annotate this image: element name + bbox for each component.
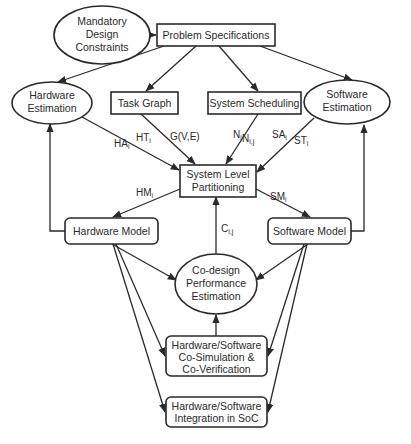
edge-problem-to-system-scheduling — [219, 46, 258, 91]
hw-sw-codesign-flow-diagram: Mandatory Design Constraints Problem Spe… — [0, 0, 411, 444]
node-label: Partitioning — [192, 181, 245, 193]
edge-problem-to-sw-estimation — [260, 46, 352, 80]
node-hardware-estimation: Hardware Estimation — [12, 82, 92, 124]
node-label: System Scheduling — [210, 97, 300, 109]
node-label: Hardware/Software — [172, 339, 262, 351]
edge-label-nij: Ni,j — [242, 133, 255, 146]
node-label: Software — [326, 88, 368, 100]
node-label: Constraints — [75, 41, 128, 53]
edge-label-n: Ni — [233, 129, 242, 141]
node-label: Hardware Model — [73, 225, 150, 237]
edge-label-ha: HAi — [114, 138, 130, 150]
edge-hw-estimation-to-partition — [82, 117, 179, 170]
node-label: Estimation — [27, 102, 76, 114]
node-mandatory-design-constraints: Mandatory Design Constraints — [54, 6, 150, 64]
node-label: Mandatory — [77, 15, 127, 27]
node-software-model: Software Model — [268, 218, 351, 244]
edge-problem-to-task-graph — [146, 46, 196, 91]
node-problem-specifications: Problem Specifications — [157, 24, 275, 46]
edge-label-g: G(V,E) — [170, 131, 200, 142]
node-label: Design — [86, 28, 119, 40]
node-label: Co-Verification — [182, 363, 250, 375]
node-label: Co-Simulation & — [179, 351, 255, 363]
node-label: Integration in SoC — [174, 412, 258, 424]
node-cosimulation-coverification: Hardware/Software Co-Simulation & Co-Ver… — [166, 336, 267, 376]
node-label: Performance — [186, 277, 246, 289]
edge-sw-model-to-integration — [268, 244, 307, 412]
edge-label-sm: SMi — [270, 191, 287, 203]
node-label: Estimation — [191, 290, 240, 302]
edge-sw-model-to-cosim — [268, 244, 304, 356]
node-label: Software Model — [273, 225, 346, 237]
edge-label-st: STi — [294, 135, 309, 147]
node-label: Task Graph — [118, 97, 172, 109]
node-label: Estimation — [322, 101, 371, 113]
node-software-estimation: Software Estimation — [304, 80, 390, 124]
node-label: Hardware/Software — [172, 400, 262, 412]
edge-hw-model-to-hw-estimation — [50, 124, 65, 231]
node-label: Problem Specifications — [163, 29, 270, 41]
node-hardware-model: Hardware Model — [65, 218, 158, 244]
edge-label-hm: HMi — [136, 187, 154, 199]
node-task-graph: Task Graph — [111, 92, 178, 114]
edge-hw-model-to-cosim — [116, 244, 165, 356]
edge-label-sa: SAi — [272, 129, 287, 141]
edge-hw-model-to-codesign — [112, 244, 176, 280]
node-label: Hardware — [29, 89, 75, 101]
node-system-scheduling: System Scheduling — [208, 92, 301, 114]
node-label: System Level — [186, 168, 249, 180]
edge-label-ht: HTi — [136, 132, 151, 144]
node-integration-in-soc: Hardware/Software Integration in SoC — [166, 397, 267, 427]
edge-sw-model-to-sw-estimation — [351, 125, 364, 231]
node-system-level-partitioning: System Level Partitioning — [180, 165, 256, 197]
node-codesign-performance-estimation: Co-design Performance Estimation — [175, 254, 257, 314]
edge-label-c: Ci,j — [221, 223, 234, 236]
node-label: Co-design — [192, 264, 240, 276]
